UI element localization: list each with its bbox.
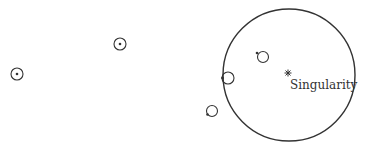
particle-on-horizon bbox=[221, 72, 234, 84]
particle-far-top bbox=[114, 38, 126, 50]
black-hole-diagram: Singularity bbox=[0, 0, 370, 147]
particle-outside-near bbox=[206, 106, 217, 117]
particle-inside bbox=[256, 52, 269, 63]
singularity-label: Singularity bbox=[290, 78, 358, 92]
event-horizon-circle bbox=[223, 9, 355, 141]
singularity-asterisk-icon bbox=[285, 70, 292, 77]
particle-far-left bbox=[11, 68, 23, 80]
